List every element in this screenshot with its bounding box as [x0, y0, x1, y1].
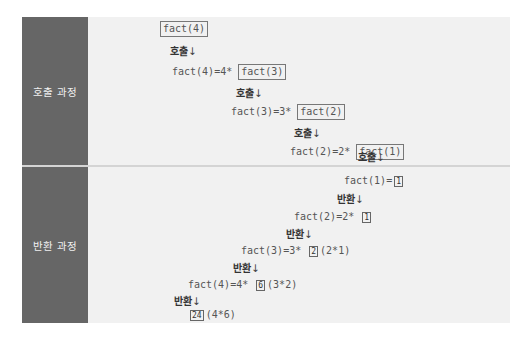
boxed-value: 2: [309, 246, 318, 257]
return-step-fact1: fact(1)=1: [344, 174, 405, 188]
call-step-fact2-expand: fact(2)=2* fact(1): [290, 144, 404, 160]
down-arrow-icon: ↓: [376, 151, 385, 163]
call-arrow-4: 호출↓: [358, 150, 385, 165]
return-arrow-3: 반환↓: [233, 261, 260, 276]
call-arrow-2: 호출↓: [236, 86, 263, 101]
down-arrow-icon: ↓: [312, 127, 321, 139]
call-step-fact4: fact(4): [160, 21, 208, 37]
call-step-fact4-expand: fact(4)=4* fact(3): [172, 64, 286, 80]
boxed-call: fact(2): [297, 104, 345, 120]
call-arrow-3: 호출↓: [294, 126, 321, 141]
down-arrow-icon: ↓: [188, 45, 197, 57]
down-arrow-icon: ↓: [254, 87, 263, 99]
boxed-value: 1: [362, 212, 371, 223]
down-arrow-icon: ↓: [192, 295, 201, 307]
boxed-value: 6: [256, 280, 265, 291]
boxed-call: fact(3): [238, 64, 286, 80]
down-arrow-icon: ↓: [355, 193, 364, 205]
boxed-value: 1: [394, 176, 403, 187]
call-step-fact3-expand: fact(3)=3* fact(2): [231, 104, 345, 120]
section-divider: [22, 165, 510, 167]
return-arrow-4: 반환↓: [174, 294, 201, 309]
call-process-label: 호출 과정: [22, 17, 88, 165]
return-step-fact3: fact(3)=3* 2(2*1): [241, 244, 350, 258]
return-final-result: 24(4*6): [188, 308, 236, 322]
call-arrow-1: 호출↓: [170, 44, 197, 59]
return-step-fact2: fact(2)=2* 1: [294, 210, 373, 224]
return-arrow-2: 반환↓: [286, 227, 313, 242]
return-process-label: 반환 과정: [22, 167, 88, 323]
return-step-fact4: fact(4)=4* 6(3*2): [188, 278, 297, 292]
down-arrow-icon: ↓: [304, 228, 313, 240]
boxed-call: fact(4): [160, 21, 208, 37]
return-arrow-1: 반환↓: [337, 192, 364, 207]
boxed-value: 24: [190, 310, 204, 321]
down-arrow-icon: ↓: [251, 262, 260, 274]
